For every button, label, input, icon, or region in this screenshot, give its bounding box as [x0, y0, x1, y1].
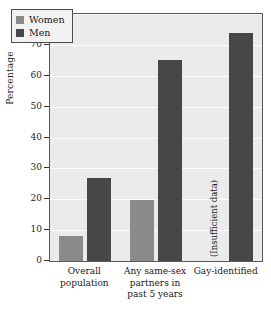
legend-label-men: Men: [29, 28, 50, 38]
bar-women: [59, 236, 83, 261]
bars-layer: (Insufficient data): [50, 14, 262, 261]
y-axis-tick-label: 50: [20, 101, 42, 110]
plot-area: (Insufficient data): [49, 13, 263, 262]
y-axis-title: Percentage: [5, 28, 19, 128]
x-axis-category-labels: OverallpopulationAny same-sexpartners in…: [49, 266, 261, 311]
legend-item-men: Men: [16, 26, 65, 39]
bar-men: [87, 178, 111, 261]
legend-item-women: Women: [16, 13, 65, 26]
insufficient-data-annotation: (Insufficient data): [210, 180, 219, 257]
legend: Women Men: [11, 9, 73, 43]
bar-men: [158, 60, 182, 261]
y-axis-tick-labels: 01020304050607080: [20, 13, 42, 260]
bar-women: [130, 200, 154, 261]
x-axis-category-label: Gay-identified: [182, 266, 269, 278]
legend-label-women: Women: [29, 15, 65, 25]
bar-chart: Percentage 01020304050607080 (Insufficie…: [0, 0, 271, 313]
bar-men: [229, 33, 253, 261]
legend-swatch-women-icon: [16, 16, 24, 24]
y-axis-tick-label: 30: [20, 163, 42, 172]
legend-swatch-men-icon: [16, 29, 24, 37]
y-axis-tick-label: 10: [20, 225, 42, 234]
y-axis-tick-label: 0: [20, 256, 42, 265]
y-axis-tick-label: 60: [20, 70, 42, 79]
y-axis-tick-label: 20: [20, 194, 42, 203]
y-axis-tick-label: 40: [20, 132, 42, 141]
